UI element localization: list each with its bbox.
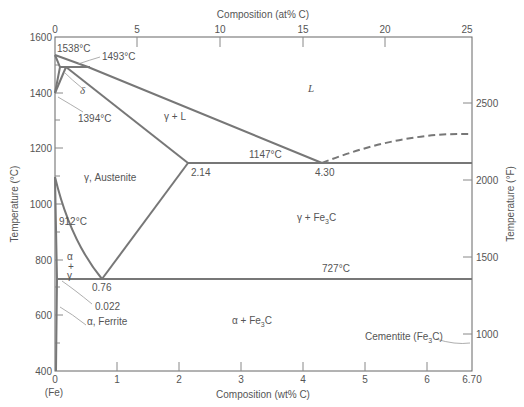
a3-line	[55, 177, 102, 279]
t1493-label: 1493°C	[102, 51, 135, 62]
x-ticks	[117, 362, 427, 371]
t1147-label: 1147°C	[249, 149, 282, 160]
region-alpha-fe3c: α + Fe3C	[232, 315, 272, 328]
x-top-tick-labels: 0 5 10 15 20 25	[52, 24, 473, 35]
svg-text:0: 0	[52, 374, 58, 385]
fe3c-liquidus-dashed	[322, 134, 472, 163]
svg-text:1500: 1500	[476, 252, 499, 263]
svg-text:25: 25	[461, 24, 473, 35]
region-gamma: γ	[67, 270, 72, 281]
x-top-axis-title: Composition (at% C)	[217, 9, 309, 20]
y-right-tick-labels: 1000 1500 2000 2500	[476, 98, 499, 340]
t1394-label: 1394°C	[78, 113, 111, 124]
svg-text:1600: 1600	[30, 32, 53, 43]
region-gamma-fe3c: γ + Fe3C	[297, 212, 336, 225]
svg-text:600: 600	[35, 310, 52, 321]
x-axis-title: Composition (wt% C)	[216, 389, 310, 400]
svg-text:1000: 1000	[30, 199, 53, 210]
fe-label: (Fe)	[45, 387, 63, 398]
svg-text:1000: 1000	[476, 329, 499, 340]
svg-text:15: 15	[297, 24, 309, 35]
region-delta: δ	[80, 84, 86, 96]
t1538-label: 1538°C	[57, 43, 90, 54]
svg-text:400: 400	[35, 366, 52, 377]
c430-label: 4.30	[315, 167, 335, 178]
phase-diagram: 0 1 2 3 4 5 6 6.70 0 5 10 15 20 25 400 6…	[0, 0, 524, 407]
region-gamma-liquid: γ + L	[164, 111, 186, 122]
t727-label: 727°C	[322, 263, 350, 274]
region-cementite: Cementite (Fe3C)	[365, 331, 443, 344]
liquidus-line	[55, 55, 322, 163]
region-ferrite: α, Ferrite	[87, 316, 128, 327]
region-austenite: γ, Austenite	[84, 172, 137, 183]
y-right-axis-title: Temperature (°F)	[505, 166, 516, 242]
svg-text:3: 3	[238, 374, 244, 385]
svg-text:5: 5	[134, 24, 140, 35]
t912-label: 912°C	[59, 216, 87, 227]
svg-text:5: 5	[362, 374, 368, 385]
svg-text:4: 4	[300, 374, 306, 385]
c076-label: 0.76	[92, 282, 112, 293]
svg-text:2: 2	[176, 374, 182, 385]
x-tick-labels: 0 1 2 3 4 5 6 6.70	[52, 374, 482, 385]
svg-text:6.70: 6.70	[462, 374, 482, 385]
svg-text:1200: 1200	[30, 143, 53, 154]
svg-text:0: 0	[52, 24, 58, 35]
x-top-ticks	[137, 37, 385, 47]
svg-text:800: 800	[35, 255, 52, 266]
c214-label: 2.14	[191, 167, 211, 178]
svg-text:1: 1	[114, 374, 120, 385]
svg-text:6: 6	[424, 374, 430, 385]
y-tick-labels: 400 600 800 1000 1200 1400 1600	[30, 32, 53, 377]
svg-text:10: 10	[214, 24, 226, 35]
c0022-label: 0.022	[95, 301, 120, 312]
svg-text:2000: 2000	[476, 175, 499, 186]
svg-text:1400: 1400	[30, 88, 53, 99]
y-right-ticks	[463, 103, 472, 334]
region-liquid: L	[307, 82, 314, 94]
svg-text:20: 20	[379, 24, 391, 35]
svg-text:2500: 2500	[476, 98, 499, 109]
y-axis-title: Temperature (°C)	[9, 166, 20, 243]
